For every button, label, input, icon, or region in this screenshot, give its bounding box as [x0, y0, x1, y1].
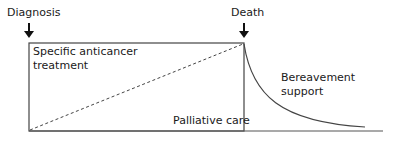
anticancer-label-line1: Specific anticancer — [33, 45, 138, 59]
bereavement-label-line2: support — [281, 85, 323, 99]
palliative-label: Palliative care — [173, 114, 250, 128]
death-label: Death — [231, 6, 264, 20]
diagnosis-arrow-icon — [24, 23, 34, 38]
death-arrow-icon — [239, 23, 249, 38]
bereavement-label-line1: Bereavement — [281, 71, 355, 85]
diagnosis-label: Diagnosis — [7, 6, 60, 20]
anticancer-label-line2: treatment — [33, 59, 88, 73]
